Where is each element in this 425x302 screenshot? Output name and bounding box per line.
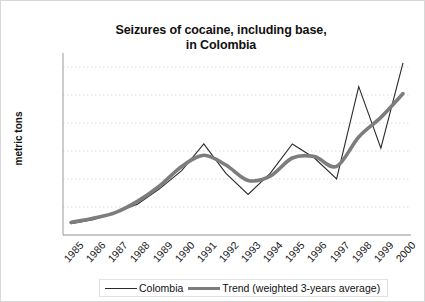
series-line-trend (71, 94, 403, 223)
legend-item-colombia[interactable]: Colombia (105, 282, 183, 294)
axis-lines (63, 53, 411, 235)
legend-line-trend-icon (188, 287, 220, 290)
chart-legend: Colombia Trend (weighted 3-years average… (99, 279, 388, 297)
plot-svg (63, 53, 411, 235)
legend-item-trend[interactable]: Trend (weighted 3-years average) (183, 282, 380, 294)
chart-container: Seizures of cocaine, including base, in … (0, 0, 425, 302)
legend-label-trend: Trend (weighted 3-years average) (222, 282, 380, 294)
series-group (71, 63, 403, 224)
plot-area (63, 53, 411, 235)
legend-line-colombia-icon (105, 288, 137, 289)
gridlines (63, 67, 411, 235)
legend-label-colombia: Colombia (139, 282, 183, 294)
